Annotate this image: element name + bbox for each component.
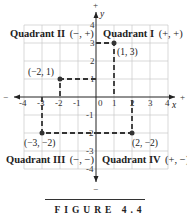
x-tick: 3 xyxy=(148,98,153,108)
y-axis-arrow-down-icon xyxy=(94,176,99,182)
x-tick: -2 xyxy=(55,98,63,108)
quadrant-signs: (+, −) xyxy=(165,154,187,166)
quadrant-i-label: Quadrant I (+, +) xyxy=(103,28,183,40)
x-tick: -3 xyxy=(37,98,45,108)
y-tick: 2 xyxy=(90,56,95,66)
quadrant-signs: (−, −) xyxy=(70,154,95,166)
quadrant-iii-label: Quadrant III (−, −) xyxy=(6,154,94,166)
quadrant-name: Quadrant II xyxy=(10,28,65,39)
y-tick: -4 xyxy=(86,164,94,174)
point-label: (−2, 1) xyxy=(28,67,54,78)
x-axis-arrow-right-icon xyxy=(169,95,175,100)
caption-rule xyxy=(45,199,145,200)
point-1-3 xyxy=(112,41,117,46)
quadrant-name: Quadrant I xyxy=(103,28,154,39)
x-axis-negative-sign: − xyxy=(3,92,8,102)
y-axis-label: y xyxy=(99,9,105,19)
x-tick: -1 xyxy=(73,98,81,108)
x-axis-label: x xyxy=(171,100,177,110)
x-axis-positive-sign: + xyxy=(180,92,185,102)
figure-caption: FIGURE 4.4 xyxy=(45,205,155,215)
quadrant-ii-label: Quadrant II (−, +) xyxy=(10,28,94,40)
point-2-neg2 xyxy=(130,131,135,136)
point-label: (1, 3) xyxy=(117,47,138,58)
point-label: (−3, −2) xyxy=(24,138,55,149)
y-tick: 3 xyxy=(90,38,95,48)
point-label: (2, −2) xyxy=(132,138,158,149)
x-tick: -4 xyxy=(19,98,27,108)
quadrant-signs: (−, +) xyxy=(70,28,95,40)
y-axis-negative-sign: − xyxy=(93,184,98,194)
y-axis-arrow-up-icon xyxy=(94,12,99,18)
point-neg2-1 xyxy=(58,77,63,82)
coordinate-plane: − + + − x y -4 -3 -2 -1 0 1 2 3 4 4 3 2 … xyxy=(0,0,187,222)
x-tick: 1 xyxy=(112,98,117,108)
quadrant-signs: (+, +) xyxy=(159,28,184,40)
x-tick: 4 xyxy=(165,98,170,108)
y-axis-positive-sign: + xyxy=(93,0,98,10)
y-tick: -1 xyxy=(86,110,94,120)
x-tick: 0 xyxy=(98,98,103,108)
point-neg3-neg2 xyxy=(40,131,45,136)
projection-1-3 xyxy=(96,43,114,97)
quadrant-name: Quadrant III xyxy=(6,154,65,165)
quadrant-iv-label: Quadrant IV (+, −) xyxy=(102,154,187,166)
quadrant-name: Quadrant IV xyxy=(102,154,161,165)
